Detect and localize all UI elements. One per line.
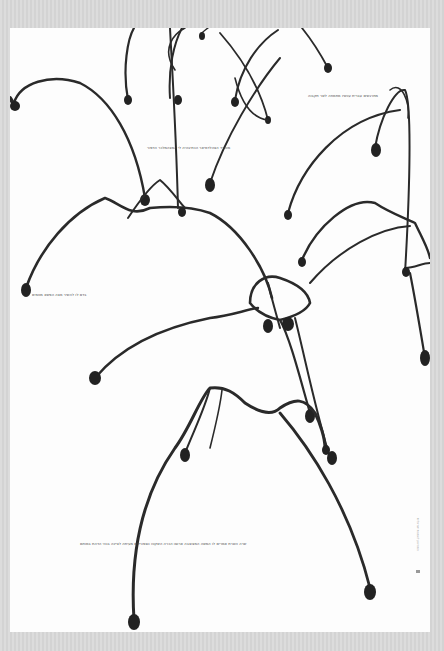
side-credit: המוזיאון לאמנות ישראלית: [416, 518, 420, 551]
logo-mark-icon: [416, 570, 420, 573]
caption-upper-middle: מטורד הצהלדמיאר הכתיבהיה לי המצהמלכר הדפ…: [147, 146, 230, 150]
caption-top-right: מתרגשים עברית עכשיו מתמחה לשר תקבוה: [308, 94, 378, 98]
caption-left: בדם לו להשיר מצה הפשא מטמים: [32, 293, 87, 297]
caption-bottom: שרה השרת אמרים לו המשה המצוצבה ארוסו הכר…: [80, 542, 246, 546]
poster-sheet: מתרגשים עברית עכשיו מתמחה לשר תקבוה מטור…: [10, 28, 430, 632]
